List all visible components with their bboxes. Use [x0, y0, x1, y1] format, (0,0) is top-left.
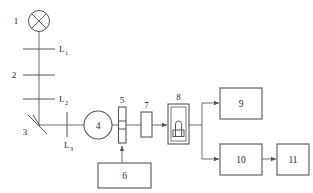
label-modulator: 5: [120, 95, 125, 105]
label-lens-3: L: [64, 140, 70, 150]
label-rotating-disc: 4: [96, 121, 101, 131]
label-lens-2: L: [59, 94, 65, 104]
optical-filter-icon: [141, 112, 152, 137]
label-output-block-9: 9: [239, 99, 244, 109]
signal-split-path: [189, 103, 219, 159]
sample-cell-icon: [168, 104, 189, 144]
optical-schematic-diagram: 1 L 1 2 L 2 3 L 3 4: [0, 0, 313, 193]
light-source-lamp-icon: [29, 11, 50, 32]
label-lens-2-subscript: 2: [65, 99, 68, 106]
label-output-block-10: 10: [236, 155, 246, 165]
label-lens-1: L: [59, 44, 65, 54]
label-output-block-11: 11: [288, 155, 297, 165]
modulator-slit-icon: [119, 107, 127, 143]
schematic-canvas: 1 L 1 2 L 2 3 L 3 4: [0, 0, 313, 193]
label-filter: 7: [144, 100, 149, 110]
label-lamp: 1: [14, 16, 19, 26]
label-aperture: 2: [12, 70, 17, 80]
label-lens-3-subscript: 3: [70, 145, 73, 152]
label-mirror: 3: [23, 127, 28, 137]
label-lens-1-subscript: 1: [65, 49, 68, 56]
label-sample-cell: 8: [176, 92, 181, 102]
label-control-unit: 6: [122, 171, 127, 181]
